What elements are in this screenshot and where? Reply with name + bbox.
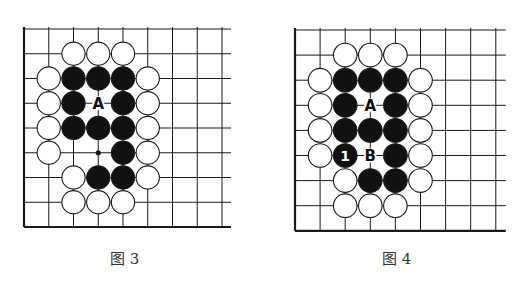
stone-number: 1 (340, 148, 350, 164)
go-board-fig4: 1AB (0, 0, 523, 240)
black-stone (333, 119, 357, 143)
white-stone (409, 169, 433, 193)
black-stone (333, 94, 357, 118)
white-stone (308, 94, 332, 118)
white-stone (409, 144, 433, 168)
caption-fig3: 图 3 (110, 247, 139, 268)
black-stone (384, 119, 408, 143)
white-stone (359, 43, 383, 67)
white-stone (384, 194, 408, 218)
black-stone (384, 169, 408, 193)
black-stone (384, 94, 408, 118)
white-stone (409, 68, 433, 92)
white-stone (308, 68, 332, 92)
white-stone (308, 144, 332, 168)
point-label: A (364, 97, 376, 115)
go-diagram-fig4: 1AB (0, 0, 523, 240)
white-stone (333, 169, 357, 193)
white-stone (359, 194, 383, 218)
black-stone (333, 68, 357, 92)
black-stone (384, 68, 408, 92)
black-stone (359, 119, 383, 143)
point-label: B (365, 147, 376, 165)
white-stone (409, 119, 433, 143)
black-stone (359, 68, 383, 92)
white-stone (308, 119, 332, 143)
white-stone (409, 94, 433, 118)
white-stone (384, 43, 408, 67)
caption-fig4: 图 4 (382, 247, 411, 268)
white-stone (333, 194, 357, 218)
white-stone (333, 43, 357, 67)
black-stone (384, 144, 408, 168)
black-stone (359, 169, 383, 193)
